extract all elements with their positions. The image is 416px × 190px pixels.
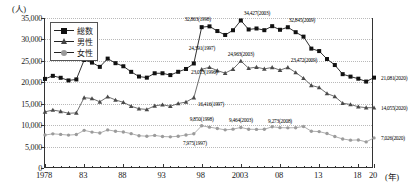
x-axis-tick-label: 2003 (232, 170, 248, 180)
y-axis-tick-label: 15,000 (21, 99, 42, 108)
data-point (176, 135, 179, 138)
data-point (184, 67, 188, 71)
data-point (325, 132, 328, 135)
y-axis-tick-label: 35,000 (21, 14, 42, 23)
x-axis-tick-label: 13 (314, 170, 322, 180)
point-value-label: 14,055(2020) (381, 105, 407, 111)
legend-marker-icon (54, 25, 74, 36)
legend-item-男性: 男性 (54, 36, 92, 47)
data-point (270, 125, 273, 128)
data-point (67, 133, 70, 136)
data-point (184, 133, 187, 136)
point-value-label: 7,975(1997) (183, 140, 207, 146)
data-point (293, 70, 298, 74)
data-point (169, 135, 172, 138)
data-point (294, 126, 297, 129)
x-axis-tick-label: 18 (353, 170, 361, 180)
data-point (294, 30, 298, 34)
data-point (145, 135, 148, 138)
data-point (341, 137, 344, 140)
data-point (137, 75, 141, 79)
data-point (349, 138, 352, 141)
x-axis-tick-label: 83 (79, 170, 87, 180)
data-point (239, 126, 242, 129)
y-axis-tick-label: 25,000 (21, 56, 42, 65)
data-point (129, 132, 132, 135)
legend-item-総数: 総数 (54, 25, 92, 36)
series-男性 (43, 59, 377, 115)
data-point (247, 128, 250, 131)
point-value-label: 24,391(1997) (189, 45, 215, 51)
data-point (184, 100, 189, 104)
data-point (59, 76, 63, 80)
point-value-label: 32,863(1998) (185, 16, 211, 22)
point-value-label: 24,963(2003) (228, 51, 254, 57)
series-女性 (43, 124, 375, 144)
point-value-label: 16,416(1997) (198, 101, 224, 107)
data-point (223, 33, 227, 37)
data-point (357, 138, 360, 141)
data-point (278, 28, 282, 32)
y-axis-tick-label: 5,000 (25, 142, 42, 151)
data-point (51, 74, 55, 78)
data-point (263, 128, 266, 131)
data-point (208, 24, 212, 28)
legend-item-label: 女性 (77, 47, 92, 58)
data-point (59, 133, 62, 136)
data-point (286, 126, 289, 129)
legend-item-label: 総数 (77, 25, 92, 36)
data-point (129, 70, 133, 74)
data-point (255, 26, 259, 30)
y-axis-tick-label: 20,000 (21, 78, 42, 87)
data-point (364, 80, 368, 84)
data-point (105, 94, 110, 98)
chart-root: (人) 05,00010,00015,00020,00025,00030,000… (0, 0, 416, 190)
data-point (349, 75, 353, 79)
point-value-label: 9,273(2008) (268, 118, 292, 124)
x-axis-tick-label: 88 (118, 170, 126, 180)
x-axis-line (44, 167, 373, 168)
data-point (98, 131, 101, 134)
data-point (200, 124, 203, 127)
y-axis-tick-label: 30,000 (21, 35, 42, 44)
data-point (364, 140, 367, 143)
data-point (333, 63, 337, 67)
data-point (372, 136, 375, 139)
data-point (137, 134, 140, 137)
point-value-label: 9,850(1998) (190, 116, 214, 122)
data-point (333, 135, 336, 138)
data-point (43, 133, 46, 136)
data-point (51, 108, 56, 112)
data-point (75, 133, 78, 136)
point-value-label: 23,472(2009) (291, 57, 317, 63)
data-point (90, 130, 93, 133)
data-point (239, 18, 243, 22)
data-point (129, 104, 134, 108)
data-point (317, 49, 321, 53)
data-point (254, 65, 259, 69)
legend-marker-icon (54, 47, 74, 58)
data-point (82, 129, 85, 132)
data-point (192, 132, 195, 135)
point-value-label: 23,013(1996) (191, 69, 217, 75)
data-point (231, 127, 234, 130)
x-axis-tick-label: 93 (157, 170, 165, 180)
data-point (74, 77, 78, 81)
data-point (160, 102, 165, 106)
point-value-label: 34,427(2003) (244, 10, 270, 16)
data-point (153, 134, 156, 137)
chart-legend: 総数男性女性 (50, 22, 98, 61)
data-point (216, 127, 219, 130)
x-axis-tick-mark (374, 164, 375, 168)
data-point (153, 71, 157, 75)
legend-item-女性: 女性 (54, 47, 92, 58)
data-point (356, 77, 360, 81)
data-point (98, 65, 102, 69)
data-point (114, 61, 118, 65)
point-value-label: 7,026(2020) (381, 135, 405, 141)
data-point (302, 125, 305, 128)
data-point (215, 29, 219, 33)
data-point (262, 28, 266, 32)
data-point (200, 25, 204, 29)
y-axis-tick-label: 10,000 (21, 121, 42, 130)
